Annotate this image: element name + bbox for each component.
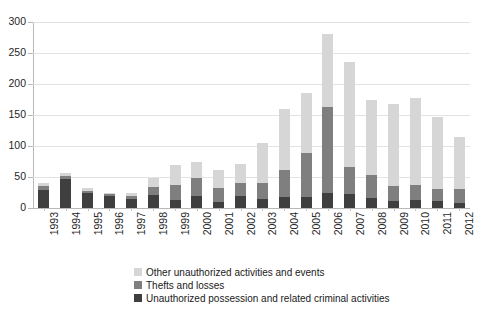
stacked-bar-chart: 050100150200250300 199319941995199619971… [0, 0, 490, 317]
legend-swatch-icon [134, 294, 142, 302]
y-tick-200 [28, 84, 33, 85]
x-tick-2012 [459, 208, 460, 211]
x-tick-2004 [284, 208, 285, 211]
x-tick-1998 [153, 208, 154, 211]
x-tick-2011 [437, 208, 438, 211]
x-axis-label-1994: 1994 [71, 212, 82, 235]
y-tick-250 [28, 53, 33, 54]
y-tick-300 [28, 22, 33, 23]
legend-item[interactable]: Other unauthorized activities and events [134, 266, 434, 278]
x-axis-label-1996: 1996 [114, 212, 125, 235]
x-tick-1999 [175, 208, 176, 211]
x-axis-label-2010: 2010 [420, 212, 431, 235]
x-tick-2010 [415, 208, 416, 211]
legend-label: Thefts and losses [146, 280, 224, 291]
x-tick-2002 [241, 208, 242, 211]
x-tick-1995 [88, 208, 89, 211]
x-axis-label-1997: 1997 [136, 212, 147, 235]
x-axis-label-2001: 2001 [224, 212, 235, 235]
x-tick-2007 [350, 208, 351, 211]
x-axis-label-1999: 1999 [180, 212, 191, 235]
x-axis-label-1998: 1998 [158, 212, 169, 235]
x-tick-1996 [109, 208, 110, 211]
legend-label: Unauthorized possession and related crim… [146, 293, 389, 304]
x-axis-label-2003: 2003 [267, 212, 278, 235]
legend-item[interactable]: Unauthorized possession and related crim… [134, 292, 434, 304]
legend-swatch-icon [134, 281, 142, 289]
x-axis-label-1993: 1993 [49, 212, 60, 235]
legend-swatch-icon [134, 268, 142, 276]
x-tick-2009 [394, 208, 395, 211]
x-axis-label-2012: 2012 [464, 212, 475, 235]
x-tick-1997 [131, 208, 132, 211]
x-tick-1994 [66, 208, 67, 211]
y-tick-50 [28, 177, 33, 178]
x-axis-label-2002: 2002 [246, 212, 257, 235]
x-axis-label-2005: 2005 [311, 212, 322, 235]
x-axis-label-2000: 2000 [202, 212, 213, 235]
x-axis-label-1995: 1995 [93, 212, 104, 235]
legend-label: Other unauthorized activities and events [146, 267, 324, 278]
legend-item[interactable]: Thefts and losses [134, 279, 434, 291]
x-tick-1993 [44, 208, 45, 211]
x-tick-2006 [328, 208, 329, 211]
x-tick-2008 [372, 208, 373, 211]
x-tick-2000 [197, 208, 198, 211]
x-axis-label-2009: 2009 [399, 212, 410, 235]
x-tick-2005 [306, 208, 307, 211]
x-axis-label-2011: 2011 [442, 212, 453, 235]
y-tick-0 [28, 208, 33, 209]
x-axis-label-2006: 2006 [333, 212, 344, 235]
x-tick-2001 [219, 208, 220, 211]
y-tick-100 [28, 146, 33, 147]
x-axis-label-2007: 2007 [355, 212, 366, 235]
chart-legend: Other unauthorized activities and events… [134, 266, 434, 305]
x-tick-2003 [262, 208, 263, 211]
x-axis-label-2008: 2008 [377, 212, 388, 235]
y-tick-150 [28, 115, 33, 116]
x-axis-label-2004: 2004 [289, 212, 300, 235]
